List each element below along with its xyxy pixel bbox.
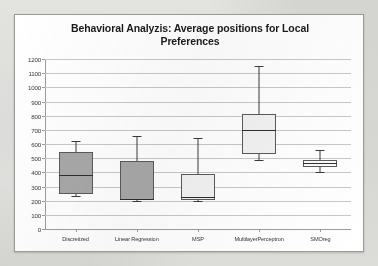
whisker-cap-upper (71, 141, 80, 142)
median-line (120, 199, 154, 200)
whisker-upper (320, 150, 321, 160)
whisker-cap-upper (316, 150, 325, 151)
x-tick-mark-2 (198, 229, 199, 232)
boxplot-smoreg[interactable] (290, 59, 351, 229)
x-tick-label-multilayerperceptron: MultilayerPerceptron (235, 236, 284, 242)
whisker-cap-upper (132, 136, 141, 137)
x-tick-label-msp: MSP (192, 236, 204, 242)
median-line (181, 197, 215, 198)
x-tick-label-smoreg: SMOreg (310, 236, 330, 242)
plot-area: 1200110010009008007006005004003002001000 (45, 59, 351, 229)
x-tick-mark-4 (320, 229, 321, 232)
chart-title: Behavioral Analyzis: Average positions f… (45, 22, 335, 48)
y-tick-label-1100: 1100 (28, 70, 41, 77)
y-tick-label-0: 0 (38, 226, 41, 233)
y-tick-label-700: 700 (31, 126, 41, 133)
whisker-cap-upper (255, 66, 264, 67)
y-tick-label-500: 500 (31, 155, 41, 162)
boxplot-linear-regression[interactable] (106, 59, 167, 229)
y-tick-label-900: 900 (31, 98, 41, 105)
whisker-upper (197, 138, 198, 173)
y-tick-label-1200: 1200 (28, 56, 41, 63)
whisker-cap-lower (316, 172, 325, 173)
boxplot-multilayerperceptron[interactable] (229, 59, 290, 229)
x-tick-mark-0 (76, 229, 77, 232)
whisker-cap-lower (193, 201, 202, 202)
y-tick-label-100: 100 (31, 211, 41, 218)
y-tick-label-800: 800 (31, 112, 41, 119)
median-line (59, 175, 93, 176)
whisker-upper (75, 141, 76, 152)
iqr-box (242, 114, 276, 154)
iqr-box (120, 161, 154, 200)
boxplot-msp[interactable] (167, 59, 228, 229)
iqr-box (181, 174, 215, 200)
whisker-cap-lower (132, 201, 141, 202)
x-tick-mark-1 (137, 229, 138, 232)
y-tick-label-400: 400 (31, 169, 41, 176)
whisker-cap-lower (71, 196, 80, 197)
iqr-box (59, 152, 93, 195)
y-tick-label-200: 200 (31, 197, 41, 204)
y-tick-label-600: 600 (31, 141, 41, 148)
y-tick-label-300: 300 (31, 183, 41, 190)
whisker-upper (136, 136, 137, 162)
median-line (303, 163, 337, 164)
y-tick-label-1000: 1000 (28, 84, 41, 91)
median-line (242, 130, 276, 131)
x-tick-label-discretized: Discretized (62, 236, 89, 242)
x-tick-mark-3 (259, 229, 260, 232)
whisker-cap-lower (255, 160, 264, 161)
whisker-cap-upper (193, 138, 202, 139)
boxplot-discretized[interactable] (45, 59, 106, 229)
whisker-upper (259, 66, 260, 114)
x-tick-label-linear-regression: Linear Regression (115, 236, 159, 242)
chart-card: Behavioral Analyzis: Average positions f… (14, 14, 364, 252)
